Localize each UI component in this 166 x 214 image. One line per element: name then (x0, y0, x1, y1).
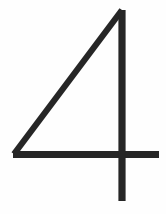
background (0, 0, 166, 214)
digit-four-glyph (0, 0, 166, 214)
image-canvas (0, 0, 166, 214)
